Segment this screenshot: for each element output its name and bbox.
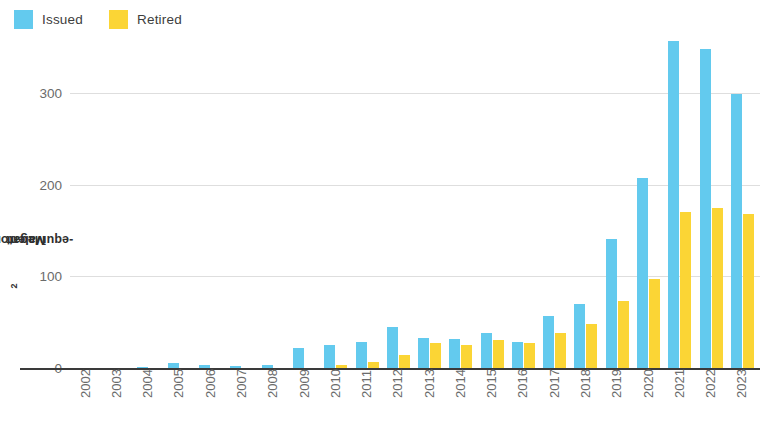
- y-axis-tick-label: 300: [18, 85, 62, 100]
- bar-group[interactable]: [70, 20, 101, 368]
- bar-group[interactable]: [226, 20, 257, 368]
- x-axis-tick-label: 2020: [636, 372, 662, 424]
- x-axis-tick-labels: 2002200320042005200620072008200920102011…: [70, 372, 758, 427]
- bar-issued[interactable]: [637, 178, 648, 368]
- x-axis-tick-label: 2016: [510, 372, 536, 424]
- x-axis-tick-label: 2007: [229, 372, 255, 424]
- bar-group[interactable]: [195, 20, 226, 368]
- x-axis-tick-label: 2009: [292, 372, 318, 424]
- x-axis-tick-label: 2015: [479, 372, 505, 424]
- bar-group[interactable]: [508, 20, 539, 368]
- bar-chart: Issued Retired Megatons of CO2-equivalen…: [0, 0, 760, 427]
- x-axis-tick-label: 2018: [573, 372, 599, 424]
- x-axis-tick-label: 2013: [417, 372, 443, 424]
- bar-group[interactable]: [320, 20, 351, 368]
- plot-area: [70, 20, 758, 368]
- x-axis-tick-label: 2008: [260, 372, 286, 424]
- bar-group[interactable]: [445, 20, 476, 368]
- bar-group[interactable]: [289, 20, 320, 368]
- bar-group[interactable]: [570, 20, 601, 368]
- bar-group[interactable]: [602, 20, 633, 368]
- bar-group[interactable]: [133, 20, 164, 368]
- x-axis-tick-label: 2019: [604, 372, 630, 424]
- x-axis-tick-label: 2022: [698, 372, 724, 424]
- x-axis-tick-label: 2005: [166, 372, 192, 424]
- bar-group[interactable]: [633, 20, 664, 368]
- y-axis-tick-label: 100: [18, 269, 62, 284]
- x-axis-tick-label: 2011: [354, 372, 380, 424]
- bar-group[interactable]: [351, 20, 382, 368]
- bar-group[interactable]: [383, 20, 414, 368]
- bar-group[interactable]: [477, 20, 508, 368]
- x-axis-tick-label: 2021: [667, 372, 693, 424]
- bar-group[interactable]: [664, 20, 695, 368]
- y-axis-tick-label: 200: [18, 177, 62, 192]
- bar-group[interactable]: [164, 20, 195, 368]
- bar-group[interactable]: [695, 20, 726, 368]
- x-axis-tick-label: 2003: [104, 372, 130, 424]
- bar-issued[interactable]: [731, 94, 742, 368]
- x-axis-tick-label: 2010: [323, 372, 349, 424]
- x-axis-tick-label: 2006: [198, 372, 224, 424]
- bar-retired[interactable]: [743, 214, 754, 368]
- bar-group[interactable]: [258, 20, 289, 368]
- x-axis-tick-label: 2002: [73, 372, 99, 424]
- bar-group[interactable]: [101, 20, 132, 368]
- x-axis-tick-label: 2023: [729, 372, 755, 424]
- x-axis-tick-label: 2017: [542, 372, 568, 424]
- bar-retired[interactable]: [712, 208, 723, 368]
- bar-issued[interactable]: [700, 49, 711, 368]
- bar-group[interactable]: [727, 20, 758, 368]
- bar-group[interactable]: [539, 20, 570, 368]
- x-axis-tick-label: 2004: [135, 372, 161, 424]
- bar-issued[interactable]: [668, 41, 679, 368]
- y-axis-tick-labels: 0100200300: [0, 0, 62, 427]
- bar-group[interactable]: [414, 20, 445, 368]
- x-axis-tick-label: 2014: [448, 372, 474, 424]
- bar-retired[interactable]: [680, 212, 691, 368]
- x-axis-tick-label: 2012: [385, 372, 411, 424]
